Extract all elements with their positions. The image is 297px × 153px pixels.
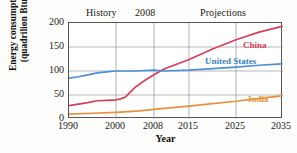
y-axis-title: Energy consumption (quadrilion Btu) <box>8 0 30 81</box>
series-label-india: India <box>248 94 269 104</box>
x-axis-title-text: Year <box>122 133 176 144</box>
x-axis-tick-labels: 1990 2000 2008 2015 2025 2035 <box>0 120 297 134</box>
x-tick-label: 2015 <box>178 120 198 131</box>
annotation-projections: Projections <box>200 7 246 18</box>
series-label-china: China <box>243 40 267 50</box>
series-label-united-states: United States <box>205 56 256 66</box>
annotation-2008: 2008 <box>135 7 155 18</box>
y-tick-label: 200 <box>38 16 64 27</box>
x-tick-label: 2000 <box>105 120 125 131</box>
y-tick-label: 50 <box>38 88 64 99</box>
x-tick-label: 2008 <box>143 120 163 131</box>
y-tick-label: 100 <box>38 64 64 75</box>
annotation-history: History <box>86 7 117 18</box>
x-tick-label: 2025 <box>225 120 245 131</box>
x-tick-label: 1990 <box>58 120 78 131</box>
x-axis-title: Year <box>0 133 297 144</box>
plot-svg <box>69 23 283 119</box>
energy-consumption-line-chart: History 2008 Projections Energy consumpt… <box>0 0 297 153</box>
y-tick-label: 150 <box>38 40 64 51</box>
x-tick-label: 2035 <box>271 120 291 131</box>
